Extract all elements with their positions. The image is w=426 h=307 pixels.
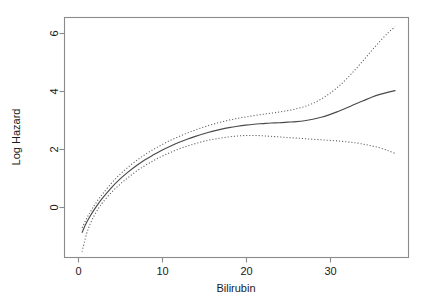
y-axis-title: Log Hazard <box>10 109 22 166</box>
y-tick-label: 2 <box>48 146 60 152</box>
y-tick-label: 0 <box>48 204 60 210</box>
x-axis-title: Bilirubin <box>216 282 255 294</box>
x-tick-label: 30 <box>324 265 336 277</box>
x-tick-label: 10 <box>156 265 168 277</box>
x-tick-label: 0 <box>75 265 81 277</box>
chart-background <box>0 0 426 307</box>
chart-canvas: 0102030 0246 Bilirubin Log Hazard <box>0 0 426 307</box>
chart-figure: 0102030 0246 Bilirubin Log Hazard <box>0 0 426 307</box>
y-tick-label: 6 <box>48 30 60 36</box>
x-tick-label: 20 <box>240 265 252 277</box>
y-tick-label: 4 <box>48 88 60 94</box>
